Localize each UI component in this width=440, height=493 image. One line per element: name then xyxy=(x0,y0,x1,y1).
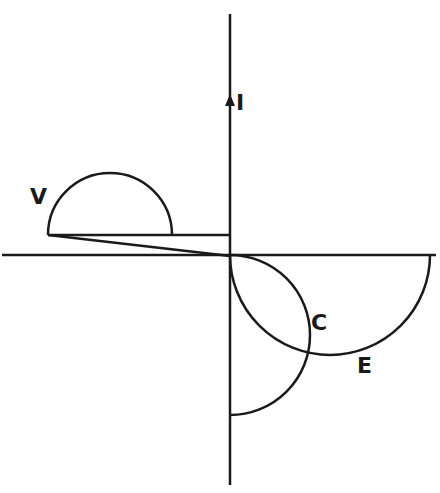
v-semicircle xyxy=(48,173,172,235)
phasor-diagram xyxy=(0,0,440,493)
current-label: I xyxy=(236,92,244,114)
e-semicircle xyxy=(230,255,430,355)
capacitor-label: C xyxy=(311,312,327,334)
emf-label: E xyxy=(357,355,372,377)
arrow-up-icon xyxy=(225,94,235,106)
voltage-label: V xyxy=(30,186,47,208)
v-diagonal-line xyxy=(48,235,230,256)
